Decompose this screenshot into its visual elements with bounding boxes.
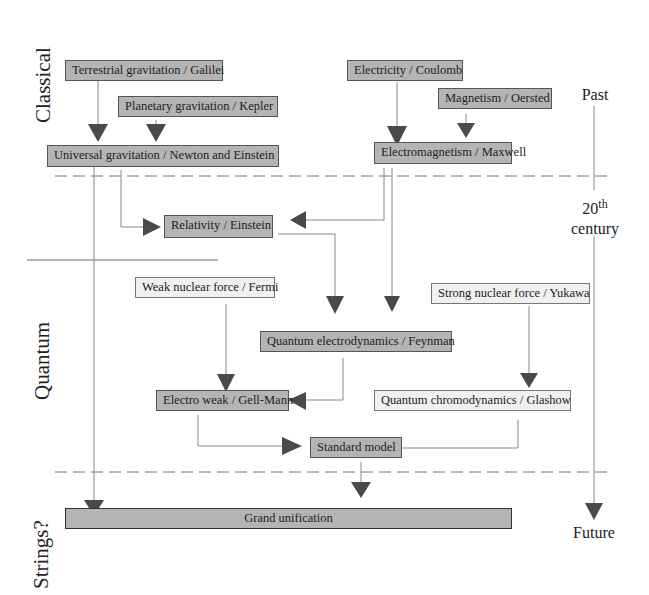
node-strong-nuclear-force: Strong nuclear force / Yukawa	[431, 283, 590, 304]
era-label-strings: Strings?	[29, 511, 53, 589]
node-electroweak: Electro weak / Gell-Mann	[156, 390, 289, 411]
timeline-century: century	[571, 220, 619, 237]
era-label-classical: Classical	[31, 37, 55, 123]
arrowheads	[84, 123, 603, 520]
timeline-th: th	[598, 197, 607, 211]
timeline-20th-century: 20th century	[560, 194, 630, 239]
timeline-20: 20	[582, 200, 598, 217]
node-planetary-gravitation: Planetary gravitation / Kepler	[118, 96, 278, 117]
node-standard-model: Standard model	[310, 437, 402, 458]
node-universal-gravitation: Universal gravitation / Newton and Einst…	[47, 145, 279, 167]
node-relativity: Relativity / Einstein	[164, 215, 273, 238]
node-grand-unification: Grand unification	[65, 508, 512, 529]
node-magnetism: Magnetism / Oersted	[438, 88, 552, 109]
node-terrestrial-gravitation: Terrestrial gravitation / Galilei	[65, 60, 223, 81]
timeline-future: Future	[564, 524, 624, 542]
node-quantum-electrodynamics: Quantum electrodynamics / Feynman	[260, 331, 452, 352]
node-weak-nuclear-force: Weak nuclear force / Fermi	[135, 277, 275, 298]
era-label-quantum: Quantum	[30, 320, 54, 400]
timeline-past: Past	[570, 86, 620, 104]
node-quantum-chromodynamics: Quantum chromodynamics / Glashow	[374, 390, 571, 411]
node-electromagnetism: Electromagnetism / Maxwell	[374, 142, 512, 164]
node-electricity: Electricity / Coulomb	[347, 60, 463, 81]
